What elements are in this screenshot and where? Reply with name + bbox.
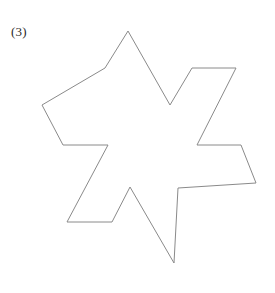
six-pointed-star-outline — [42, 31, 256, 263]
figure-container: (3) — [0, 0, 275, 293]
star-shape-figure — [0, 0, 275, 293]
